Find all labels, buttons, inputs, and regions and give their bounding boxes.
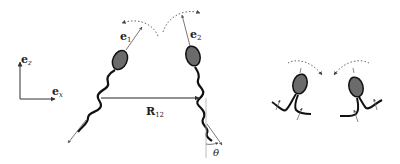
angle-indicator: θ [206,98,219,158]
e2-label: e2 [190,28,201,42]
ez-label: ez [21,53,32,67]
theta-arc [206,143,218,144]
inset-right-flagellum-1 [359,97,382,108]
inset-swimmer-left [272,61,322,120]
swimmer-2-body [184,45,203,68]
swimmer-2: e2 [163,12,222,145]
theta-label: θ [213,147,219,158]
swimmer-2-tail-arrow [207,124,222,145]
swimmer-1-body [109,48,130,72]
inset-right-flagellum-2 [340,98,358,116]
swimmer-pair-diagram: ez ex e1 e2 R12 θ [0,0,400,164]
r12-label: R12 [146,105,164,119]
inset-right-rotation-arrow [334,61,369,75]
inset-left-orientation-tick [300,68,301,73]
separation-vector: R12 [101,98,199,119]
inset-left-flagellum-1 [272,94,296,110]
coordinate-axes: ez ex [20,53,63,99]
swimmer-1-tail-arrow [68,120,86,143]
e1-label: e1 [120,30,131,44]
inset-left-flagellum-2 [295,95,311,114]
swimmer-1: e1 [68,21,158,143]
inset-left-arrow-2 [297,108,302,120]
inset-right-orientation-tick [353,68,354,73]
ex-label: ex [52,85,63,99]
swimmer-2-flagellum [195,67,212,141]
swimmer-2-orientation-arrow [182,15,190,46]
inset-swimmer-right [334,61,382,122]
inset-left-rotation-arrow [288,61,322,75]
inset-left-body [291,73,310,96]
inset-right-body [347,76,366,99]
swimmer-1-rotation-arrow [122,21,158,36]
